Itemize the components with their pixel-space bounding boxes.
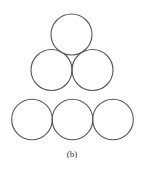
circle-middle-left: [31, 50, 72, 91]
triangle-group: [31, 14, 113, 91]
circle-top: [51, 14, 92, 55]
figure-caption: (b): [67, 149, 78, 159]
row-group: [12, 99, 134, 140]
circle-bottom-right: [93, 99, 134, 140]
circle-bottom-left: [12, 99, 53, 140]
circle-bottom-middle: [52, 99, 93, 140]
circle-middle-right: [72, 50, 113, 91]
diagram-canvas: (b): [0, 0, 141, 171]
